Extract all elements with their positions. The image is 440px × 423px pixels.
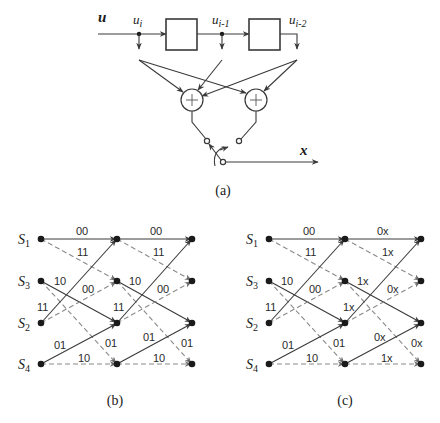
edge-label: 01 xyxy=(54,339,66,351)
caption-c: (c) xyxy=(337,393,353,409)
edge-label: 10 xyxy=(281,275,293,287)
tap-label-ui: ui xyxy=(133,12,143,29)
edge-s3-s4 xyxy=(345,281,420,363)
switch-pivot xyxy=(220,159,225,164)
edge-label: 1x xyxy=(381,352,393,364)
edge-s2-s3 xyxy=(41,282,116,323)
switch-contact-2 xyxy=(236,138,241,143)
edge-s3-s2 xyxy=(269,281,344,322)
trellis-c: S1 S3 S2 S4 00 11 10 00 11 01 01 10 0x 1… xyxy=(246,225,424,409)
adder-2 xyxy=(245,89,267,111)
state-label-s4: S4 xyxy=(18,357,30,374)
wire-adder1-contact xyxy=(192,111,206,139)
delay-element-1 xyxy=(166,19,197,50)
edge-s2-s3 xyxy=(269,282,344,323)
figure-canvas: u ui ui-1 ui-2 xyxy=(0,0,440,423)
edge-label: 01 xyxy=(181,337,193,349)
edge-label: 11 xyxy=(153,246,164,258)
edge-s3-s4 xyxy=(117,281,191,363)
state-label-s3: S3 xyxy=(246,274,258,291)
edge-label: 0x xyxy=(411,337,423,349)
edge-label: 0x xyxy=(377,225,389,237)
edge-label: 11 xyxy=(305,246,316,258)
input-label: u xyxy=(98,9,106,25)
edge-label: 00 xyxy=(309,283,321,295)
caption-b: (b) xyxy=(107,393,124,409)
edge-s3-s4 xyxy=(269,281,344,363)
tap-wire-ui2 xyxy=(280,34,297,49)
state-label-s2: S2 xyxy=(246,316,258,333)
wire-adder2-contact xyxy=(241,111,256,139)
output-label: x xyxy=(299,142,308,158)
edge-label: 11 xyxy=(265,301,276,313)
edge-label: 01 xyxy=(105,337,117,349)
state-label-s2: S2 xyxy=(18,316,30,333)
edge-s3-s2 xyxy=(117,281,191,322)
edge-label: 11 xyxy=(113,301,124,313)
edge-label: 0x xyxy=(374,331,386,343)
edge-label: 00 xyxy=(157,283,169,295)
edge-label: 1x xyxy=(343,301,355,313)
edge-s2-s3 xyxy=(345,282,420,323)
edge-s3-s4 xyxy=(41,281,116,363)
edge-s2-s3 xyxy=(117,282,191,323)
edge-s3-s2 xyxy=(41,281,116,322)
tap-label-ui2: ui-2 xyxy=(289,12,307,29)
edge-label: 00 xyxy=(303,225,315,237)
edge-label: 01 xyxy=(333,337,345,349)
edge-label: 10 xyxy=(78,352,90,364)
wire-ui-adder1 xyxy=(139,60,183,92)
state-label-s1: S1 xyxy=(18,232,30,249)
edge-label: 00 xyxy=(150,225,162,237)
edge-s3-s2 xyxy=(345,281,420,322)
delay-element-2 xyxy=(249,19,280,50)
wire-ui2-adder2 xyxy=(264,60,297,91)
edge-label: 01 xyxy=(143,331,155,343)
state-label-s1: S1 xyxy=(246,232,258,249)
tap-label-ui1: ui-1 xyxy=(212,12,230,29)
edge-label: 1x xyxy=(382,246,394,258)
edge-label: 10 xyxy=(306,352,318,364)
edge-label: 00 xyxy=(82,283,94,295)
edge-label: 10 xyxy=(153,352,165,364)
wire-ui1-adder1 xyxy=(198,60,222,90)
edge-label: 1x xyxy=(357,275,369,287)
wire-ui-adder2 xyxy=(139,60,246,93)
encoder-diagram: u ui ui-1 ui-2 xyxy=(98,9,318,199)
edge-label: 0x xyxy=(387,283,399,295)
state-label-s3: S3 xyxy=(18,274,30,291)
edge-label: 10 xyxy=(129,275,141,287)
switch-contact-1 xyxy=(204,138,209,143)
edge-label: 11 xyxy=(77,246,88,258)
edge-label: 01 xyxy=(282,339,294,351)
edge-label: 00 xyxy=(76,225,88,237)
adder-1 xyxy=(181,89,203,111)
state-label-s4: S4 xyxy=(246,357,258,374)
trellis-b: S1 S3 S2 S4 00 11 10 00 11 01 01 10 00 1… xyxy=(18,225,195,409)
edge-label: 10 xyxy=(54,275,66,287)
edge-label: 11 xyxy=(37,301,48,313)
caption-a: (a) xyxy=(215,183,231,199)
